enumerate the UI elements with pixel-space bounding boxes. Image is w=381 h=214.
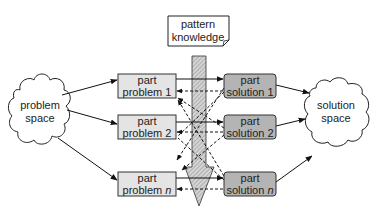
solution-space-cloud: solution space <box>304 78 369 147</box>
part-problem-n-line1: part <box>138 172 157 184</box>
pattern-diagram: pattern knowledge problem space solution… <box>0 0 381 214</box>
pattern-knowledge-line2: knowledge <box>172 31 225 43</box>
part-solution-n: part solution n <box>224 172 276 196</box>
part-solution-1: part solution 1 <box>224 74 276 98</box>
part-solution-2-line1: part <box>241 115 260 127</box>
solution-space-line2: space <box>321 112 350 124</box>
part-problem-1: part problem 1 <box>118 74 176 98</box>
pattern-knowledge-line1: pattern <box>181 18 215 30</box>
part-solution-1-line2: solution 1 <box>226 86 273 98</box>
problem-space-line1: problem <box>20 99 60 111</box>
part-problem-n-line2: problem n <box>123 184 172 196</box>
pattern-knowledge-note: pattern knowledge <box>168 16 229 46</box>
part-solution-n-line1: part <box>241 172 260 184</box>
problem-space-line2: space <box>25 112 54 124</box>
part-problem-1-line1: part <box>138 74 157 86</box>
problem-space-cloud: problem space <box>8 74 70 144</box>
part-problem-2: part problem 2 <box>118 115 176 139</box>
part-solution-n-line2: solution n <box>226 184 273 196</box>
part-problem-1-line2: problem 1 <box>123 86 172 98</box>
part-problem-2-line1: part <box>138 115 157 127</box>
part-solution-1-line1: part <box>241 74 260 86</box>
part-problem-2-line2: problem 2 <box>123 127 172 139</box>
part-solution-2: part solution 2 <box>224 115 276 139</box>
part-problem-n: part problem n <box>118 172 176 196</box>
solution-space-line1: solution <box>317 99 355 111</box>
part-solution-2-line2: solution 2 <box>226 127 273 139</box>
